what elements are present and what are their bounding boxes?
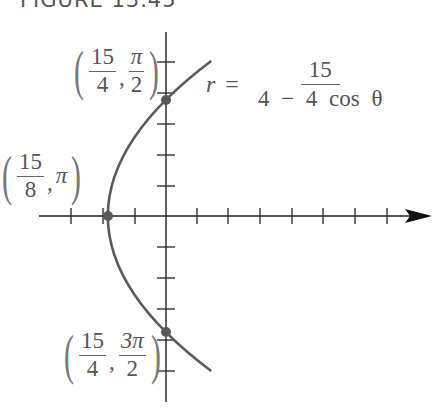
r-fraction: 15 4	[89, 45, 116, 96]
label-top-point: ( 15 4 , π 2 )	[70, 44, 163, 98]
left-paren: (	[74, 44, 84, 98]
equation-label: r = 15 4 − 4 cos θ	[206, 58, 392, 111]
right-paren: )	[71, 149, 81, 203]
point-vertex	[103, 211, 113, 221]
theta-fraction: π 2	[129, 45, 145, 96]
left-paren: (	[2, 149, 12, 203]
r-fraction: 15 4	[79, 329, 106, 380]
label-vertex-point: ( 15 8 , π )	[0, 149, 85, 203]
right-paren: )	[151, 328, 161, 382]
left-paren: (	[64, 328, 74, 382]
right-paren: )	[149, 44, 159, 98]
theta-fraction: 3π 2	[119, 329, 146, 380]
label-bottom-point: ( 15 4 , 3π 2 )	[60, 328, 165, 382]
r-fraction: 15 8	[17, 150, 44, 201]
equation-fraction: 15 4 − 4 cos θ	[250, 58, 391, 111]
